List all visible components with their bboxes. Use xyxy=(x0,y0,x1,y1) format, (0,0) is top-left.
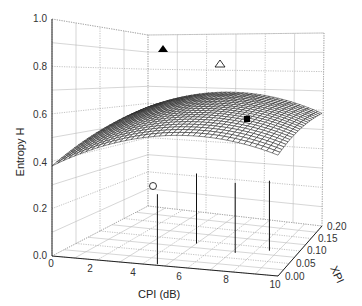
z-tick: 0.6 xyxy=(33,109,47,120)
open-circle-marker xyxy=(150,183,157,190)
y-tick: 0.20 xyxy=(327,221,347,232)
x-tick: 8 xyxy=(223,274,229,285)
x-tick: 0 xyxy=(48,258,54,269)
z-tick: 0.8 xyxy=(33,61,47,72)
y-axis-label: XPI xyxy=(328,264,346,285)
filled-square-marker xyxy=(244,116,250,122)
z-tick: 0.2 xyxy=(33,203,47,214)
x-tick: 4 xyxy=(130,267,136,278)
y-tick: 0.05 xyxy=(296,258,316,269)
filled-triangle-marker xyxy=(158,45,168,52)
marker-stems xyxy=(157,174,269,265)
x-tick: 2 xyxy=(87,263,93,274)
y-tick: 0.15 xyxy=(318,233,338,244)
z-tick: 0.0 xyxy=(33,250,47,261)
open-triangle-marker xyxy=(215,60,225,67)
y-tick: 0.10 xyxy=(307,245,327,256)
entropy-surface-mesh xyxy=(52,92,322,166)
y-tick: 0.00 xyxy=(285,271,305,282)
z-axis-label: Entropy H xyxy=(14,127,26,176)
surface-chart: 1.0 0.8 0.6 0.4 0.2 0.0 0 2 4 6 8 10 0.0… xyxy=(0,0,362,306)
x-tick: 10 xyxy=(269,279,281,290)
z-tick: 1.0 xyxy=(33,13,47,24)
x-tick: 6 xyxy=(176,271,182,282)
x-axis-label: CPI (dB) xyxy=(138,288,180,300)
z-tick: 0.4 xyxy=(33,157,47,168)
